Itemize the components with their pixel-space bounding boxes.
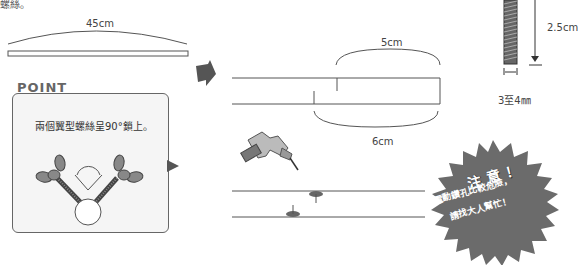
screw-length-label: 2.5cm bbox=[547, 22, 578, 33]
step-arrow-icon bbox=[192, 60, 222, 90]
screw-diagram bbox=[498, 0, 558, 75]
measure-arc bbox=[8, 31, 187, 44]
point-text: 兩個翼型螺絲呈90°鎖上。 bbox=[35, 118, 153, 133]
stick bbox=[8, 51, 188, 56]
stick-diagram bbox=[0, 0, 200, 70]
screw-width-label: 3至4㎜ bbox=[498, 92, 531, 107]
point-pointer-arrow-icon bbox=[167, 160, 181, 174]
drill-icon bbox=[240, 122, 310, 177]
wing-nut-sticks-diagram bbox=[230, 185, 430, 225]
wing-screws-illustration bbox=[35, 150, 145, 230]
